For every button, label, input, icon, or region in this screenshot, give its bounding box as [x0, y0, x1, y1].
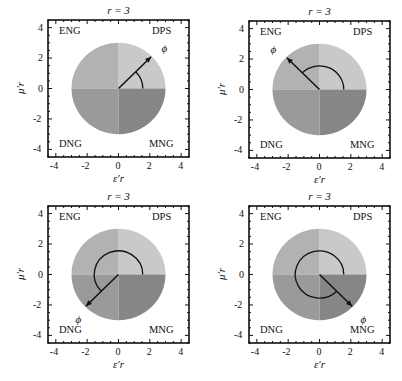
y-tick-label: 2 [239, 238, 244, 249]
panel-title: r = 3 [308, 190, 331, 202]
label-dng: DNG [260, 324, 283, 335]
x-axis-label: ε′r [314, 358, 325, 370]
label-dps: DPS [353, 211, 372, 222]
phi-label: ϕ [361, 313, 367, 325]
y-axis-label: μ′r [215, 267, 227, 279]
x-tick-label: -2 [282, 346, 290, 357]
plot-area [0, 0, 402, 381]
y-tick-label: 4 [239, 208, 244, 219]
label-eng: ENG [260, 211, 282, 222]
label-mng: MNG [350, 324, 375, 335]
y-tick-label: -4 [234, 329, 242, 340]
x-tick-label: -4 [251, 346, 259, 357]
y-tick-label: 0 [239, 269, 244, 280]
x-tick-label: 2 [348, 346, 353, 357]
x-tick-label: 4 [379, 346, 384, 357]
panel-bottom-right: r = 3ENGDPSDNGMNG-4-4-2-2002244ε′rμ′rϕ [0, 0, 201, 190]
x-tick-label: 0 [317, 346, 322, 357]
y-tick-label: -2 [234, 299, 242, 310]
